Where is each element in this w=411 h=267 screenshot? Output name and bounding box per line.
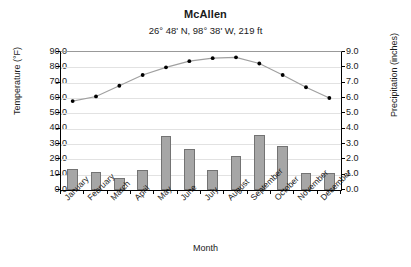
x-axis-tick-mark xyxy=(223,190,224,194)
temperature-marker xyxy=(304,85,308,89)
temperature-marker xyxy=(71,99,75,103)
y-axis-right-tick-label: 5.0 xyxy=(346,108,376,117)
temperature-marker xyxy=(117,84,121,88)
y-axis-right-tick-label: 8.0 xyxy=(346,62,376,71)
y-axis-right-tick-label: 2.0 xyxy=(346,154,376,163)
x-axis-tick-mark xyxy=(107,190,108,194)
chart-title: McAllen xyxy=(0,8,411,20)
x-axis-tick-mark xyxy=(177,190,178,194)
y-axis-right-tick-label: 6.0 xyxy=(346,93,376,102)
temperature-marker xyxy=(141,73,145,77)
x-axis-tick-mark xyxy=(153,190,154,194)
x-axis-tick-mark xyxy=(340,190,341,194)
x-axis-tick-mark xyxy=(83,190,84,194)
temperature-marker xyxy=(211,56,215,60)
y-axis-right-tick-label: 4.0 xyxy=(346,123,376,132)
x-axis-tick-mark xyxy=(270,190,271,194)
x-axis-tick-mark xyxy=(317,190,318,194)
x-axis-tick-mark xyxy=(130,190,131,194)
temperature-marker xyxy=(234,55,238,59)
chart-subtitle: 26° 48' N, 98° 38' W, 219 ft xyxy=(0,25,411,36)
temperature-marker xyxy=(187,59,191,63)
y-axis-left-title: Temperature (°F) xyxy=(12,31,22,131)
y-axis-right-tick-label: 7.0 xyxy=(346,77,376,86)
y-axis-right-title: Precipitation (inches) xyxy=(389,15,399,135)
temperature-marker xyxy=(164,65,168,69)
y-axis-right-tick-label: 9.0 xyxy=(346,47,376,56)
y-axis-right-tick-label: 3.0 xyxy=(346,139,376,148)
x-axis-tick-mark xyxy=(60,190,61,194)
temperature-line xyxy=(61,52,341,190)
temperature-marker xyxy=(281,73,285,77)
temperature-marker xyxy=(94,95,98,99)
x-axis-tick-mark xyxy=(200,190,201,194)
temperature-marker xyxy=(327,96,331,100)
climate-chart: McAllen 26° 48' N, 98° 38' W, 219 ft Tem… xyxy=(0,0,411,267)
plot-area xyxy=(60,51,342,191)
y-axis-right-tick-label: 0.0 xyxy=(346,185,376,194)
temperature-line-path xyxy=(73,57,330,101)
x-axis-tick-mark xyxy=(293,190,294,194)
temperature-marker xyxy=(257,62,261,66)
x-axis-title: Month xyxy=(0,243,411,253)
x-axis-tick-mark xyxy=(247,190,248,194)
